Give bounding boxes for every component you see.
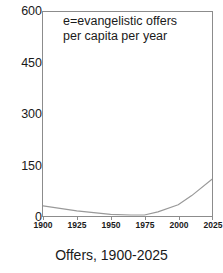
y-tick-label-150: 150 xyxy=(8,160,42,173)
x-tick-label-1925: 1925 xyxy=(68,221,87,230)
plot-annotation: e=evangelistic offers per capita per yea… xyxy=(63,14,223,44)
annotation-line-1: e=evangelistic offers xyxy=(63,14,223,29)
y-tick-label-450: 450 xyxy=(8,57,42,70)
x-tick-label-1975: 1975 xyxy=(136,221,155,230)
y-axis: 600 450 300 150 0 xyxy=(0,0,42,273)
chart-caption: Offers, 1900-2025 xyxy=(0,247,223,263)
x-tick-label-1950: 1950 xyxy=(102,221,121,230)
x-tick-label-1900: 1900 xyxy=(34,221,53,230)
y-tick-label-300: 300 xyxy=(8,108,42,121)
x-tick-label-2000: 2000 xyxy=(170,221,189,230)
y-tick-label-600: 600 xyxy=(8,5,42,18)
annotation-line-2: per capita per year xyxy=(63,29,223,44)
chart-figure: 600 450 300 150 0 e=evangelistic offers … xyxy=(0,0,223,273)
x-tick-label-2025: 2025 xyxy=(204,221,223,230)
